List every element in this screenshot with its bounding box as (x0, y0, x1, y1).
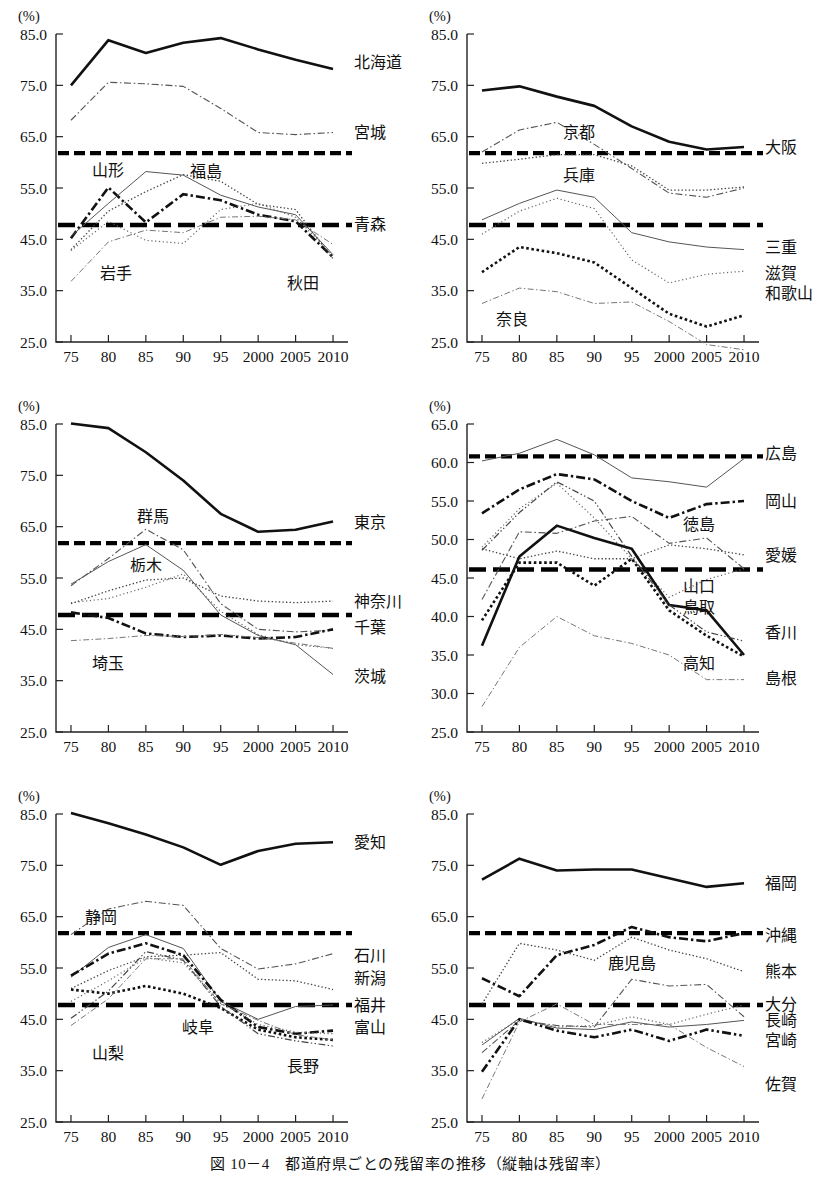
series-line-東京 (71, 423, 333, 531)
unit-label: (%) (18, 398, 40, 415)
chart-svg-panel-hokkaido-tohoku: (%)25.035.045.055.065.075.085.0758085909… (0, 0, 410, 390)
series-label-滋賀: 滋賀 (765, 265, 797, 282)
series-label-長崎: 長崎 (765, 1012, 797, 1029)
series-label-山梨: 山梨 (92, 1045, 124, 1062)
series-label-福岡: 福岡 (765, 875, 797, 892)
y-tick-label: 45.0 (20, 621, 47, 638)
series-label-秋田: 秋田 (287, 275, 319, 292)
series-label-岐阜: 岐阜 (182, 1019, 214, 1036)
series-label-広島: 広島 (765, 445, 797, 462)
x-tick-label: 80 (101, 1128, 117, 1145)
axis-lines (56, 34, 348, 342)
y-tick-label: 50.0 (431, 531, 458, 548)
figure-panel-grid: (%)25.035.045.055.065.075.085.0758085909… (0, 0, 821, 1150)
x-tick-label: 80 (101, 738, 117, 755)
series-line-愛媛 (482, 545, 744, 559)
y-tick-label: 85.0 (20, 416, 47, 433)
x-tick-label: 75 (474, 1128, 490, 1145)
series-label-青森: 青森 (354, 216, 386, 233)
series-label-岩手: 岩手 (100, 265, 132, 282)
y-tick-label: 75.0 (20, 467, 47, 484)
x-tick-label: 2005 (691, 1128, 722, 1145)
x-tick-label: 90 (587, 1128, 603, 1145)
series-label-島根: 島根 (765, 670, 797, 687)
series-label-和歌山: 和歌山 (765, 285, 813, 302)
y-tick-label: 85.0 (431, 26, 458, 43)
series-label-茨城: 茨城 (354, 668, 386, 685)
chart-panel-3: (%)25.030.035.040.045.050.055.060.065.07… (411, 390, 821, 780)
series-line-三重 (482, 190, 744, 250)
series-label-静岡: 静岡 (85, 909, 117, 926)
series-label-愛媛: 愛媛 (765, 547, 797, 564)
y-tick-label: 75.0 (20, 857, 47, 874)
series-line-宮崎 (482, 1019, 744, 1071)
series-label-大阪: 大阪 (765, 139, 797, 156)
x-tick-label: 85 (549, 348, 565, 365)
series-label-新潟: 新潟 (354, 970, 386, 987)
series-label-宮城: 宮城 (354, 124, 386, 141)
y-tick-label: 60.0 (431, 454, 458, 471)
y-tick-label: 85.0 (20, 26, 47, 43)
y-tick-label: 45.0 (20, 1011, 47, 1028)
y-tick-label: 25.0 (20, 724, 47, 741)
x-tick-label: 2005 (691, 738, 722, 755)
series-label-徳島: 徳島 (683, 516, 715, 533)
series-line-兵庫 (482, 155, 744, 190)
y-tick-label: 45.0 (431, 231, 458, 248)
series-label-福井: 福井 (354, 997, 386, 1014)
chart-svg-panel-chugoku-shikoku: (%)25.030.035.040.045.050.055.060.065.07… (411, 390, 821, 780)
series-label-石川: 石川 (354, 947, 386, 964)
x-tick-label: 2010 (729, 738, 760, 755)
y-tick-label: 25.0 (431, 334, 458, 351)
x-tick-label: 2010 (318, 738, 349, 755)
y-tick-label: 65.0 (20, 128, 47, 145)
y-tick-label: 55.0 (431, 493, 458, 510)
series-line-新潟 (71, 953, 333, 990)
x-tick-label: 2000 (243, 1128, 274, 1145)
y-tick-label: 65.0 (20, 908, 47, 925)
y-tick-label: 35.0 (20, 282, 47, 299)
x-tick-label: 90 (587, 348, 603, 365)
unit-label: (%) (429, 398, 451, 415)
series-line-佐賀 (482, 1004, 744, 1099)
y-tick-label: 25.0 (431, 724, 458, 741)
series-line-愛知 (71, 813, 333, 865)
series-label-山口: 山口 (683, 578, 715, 595)
series-label-東京: 東京 (354, 514, 386, 531)
x-tick-label: 2000 (243, 738, 274, 755)
chart-svg-panel-kyushu-okinawa: (%)25.035.045.055.065.075.085.0758085909… (411, 780, 821, 1170)
series-label-長野: 長野 (287, 1058, 319, 1075)
y-tick-label: 45.0 (431, 570, 458, 587)
x-tick-label: 2000 (654, 738, 685, 755)
series-line-大分 (482, 1005, 744, 1042)
series-line-滋賀 (482, 198, 744, 283)
x-tick-label: 75 (63, 738, 79, 755)
series-label-高知: 高知 (683, 655, 715, 672)
x-tick-label: 85 (138, 348, 154, 365)
y-tick-label: 25.0 (20, 334, 47, 351)
y-tick-label: 35.0 (20, 1062, 47, 1079)
x-tick-label: 95 (624, 348, 640, 365)
y-tick-label: 55.0 (431, 180, 458, 197)
unit-label: (%) (429, 788, 451, 805)
x-tick-label: 80 (101, 348, 117, 365)
x-tick-label: 2000 (654, 1128, 685, 1145)
y-tick-label: 35.0 (431, 282, 458, 299)
series-label-兵庫: 兵庫 (563, 167, 595, 184)
series-line-福島 (71, 175, 333, 259)
axis-lines (56, 814, 348, 1122)
x-tick-label: 75 (474, 348, 490, 365)
x-tick-label: 2000 (243, 348, 274, 365)
series-label-山形: 山形 (92, 162, 124, 179)
x-tick-label: 80 (512, 348, 528, 365)
y-tick-label: 65.0 (431, 416, 458, 433)
x-tick-label: 95 (213, 738, 229, 755)
x-tick-label: 95 (213, 348, 229, 365)
figure-caption: 図 10－4 都道府県ごとの残留率の推移（縦軸は残留率） (0, 1152, 821, 1173)
series-label-京都: 京都 (563, 124, 595, 141)
x-tick-label: 90 (176, 738, 192, 755)
x-tick-label: 2010 (318, 348, 349, 365)
y-tick-label: 55.0 (20, 180, 47, 197)
series-label-神奈川: 神奈川 (354, 593, 402, 610)
y-tick-label: 45.0 (431, 1011, 458, 1028)
